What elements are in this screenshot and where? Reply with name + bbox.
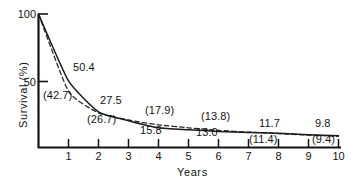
x-tick-label-4: 4 — [148, 150, 169, 162]
y-axis-title: Survival (%) — [17, 62, 29, 129]
dashed-survival-curve — [39, 14, 339, 136]
survival-curve-chart: 100 50 1 2 3 4 5 6 7 8 9 10 Survival (%)… — [0, 0, 363, 186]
x-tick-label-7: 7 — [238, 150, 259, 162]
data-label-solid-year10: 9.8 — [315, 117, 331, 129]
data-label-dashed-year4: (17.9) — [145, 104, 174, 116]
data-label-solid-year8: 11.7 — [259, 117, 280, 129]
data-label-solid-year4: 15.8 — [140, 124, 162, 136]
y-tick-label-100: 100 — [8, 8, 36, 20]
data-label-dashed-year1: (42.7) — [43, 89, 72, 101]
data-label-dashed-year10: (9.4) — [312, 133, 335, 145]
x-tick-label-1: 1 — [58, 150, 79, 162]
x-tick-label-6: 6 — [208, 150, 229, 162]
data-label-solid-year6: 13.0 — [196, 126, 218, 138]
x-tick-label-2: 2 — [88, 150, 109, 162]
x-tick-label-5: 5 — [178, 150, 199, 162]
solid-survival-curve — [39, 14, 339, 136]
data-label-dashed-year6: (13.8) — [201, 110, 230, 122]
data-label-dashed-year8: (11.4) — [249, 133, 278, 145]
data-label-solid-year2: 27.5 — [100, 94, 122, 106]
x-tick-label-8: 8 — [268, 150, 289, 162]
x-tick-label-10: 10 — [328, 150, 349, 162]
x-tick-label-9: 9 — [298, 150, 319, 162]
x-tick-label-3: 3 — [118, 150, 139, 162]
data-label-solid-year1: 50.4 — [73, 61, 95, 73]
x-axis-title: Years — [177, 166, 208, 178]
data-label-dashed-year2: (26.7) — [87, 113, 116, 125]
